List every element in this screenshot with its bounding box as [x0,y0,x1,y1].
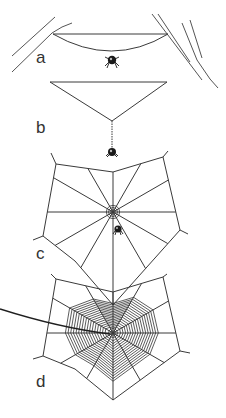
radius-thread [81,212,113,268]
spider-body [108,56,116,64]
spider-highlight [116,227,118,229]
right-branch-edge-1 [152,14,202,80]
spider-highlight [110,150,112,152]
anchor-thread [180,230,188,234]
right-branch-edge-2 [158,14,190,62]
frame-thread [43,157,180,305]
right-branch-edge-3 [182,23,218,88]
orb-web-construction-figure: a b c d [0,0,226,418]
right-branch-edge-4 [190,20,202,58]
spider-a [105,56,119,68]
radius-thread [54,178,114,212]
anchor-thread [163,151,168,157]
panel-label-d: d [36,372,45,391]
radius-thread [113,212,146,269]
anchor-thread [163,274,167,277]
anchor-thread [33,236,43,240]
spider-b [106,148,118,157]
frame-left-thread [50,82,112,121]
frame-thread [43,277,180,400]
anchor-thread [33,356,43,359]
anchor-thread [51,153,56,164]
sagging-loop-thread [53,34,168,51]
anchor-thread [180,351,190,353]
panel-d: d [0,274,190,400]
panel-label-b: b [36,118,45,137]
radius-thread [88,169,113,213]
right-branch [152,14,218,88]
frame-right-thread [112,82,167,121]
anchor-thread [51,274,56,279]
panel-a: a [12,14,218,88]
panel-label-a: a [36,48,46,67]
radius-thread [113,180,168,212]
spider-body [114,225,121,232]
spider-body [108,148,116,156]
spider-highlight [110,58,112,60]
panel-b: b [36,82,167,157]
panel-label-c: c [36,244,45,263]
panel-c: c [33,151,188,305]
radius-thread [55,212,113,245]
